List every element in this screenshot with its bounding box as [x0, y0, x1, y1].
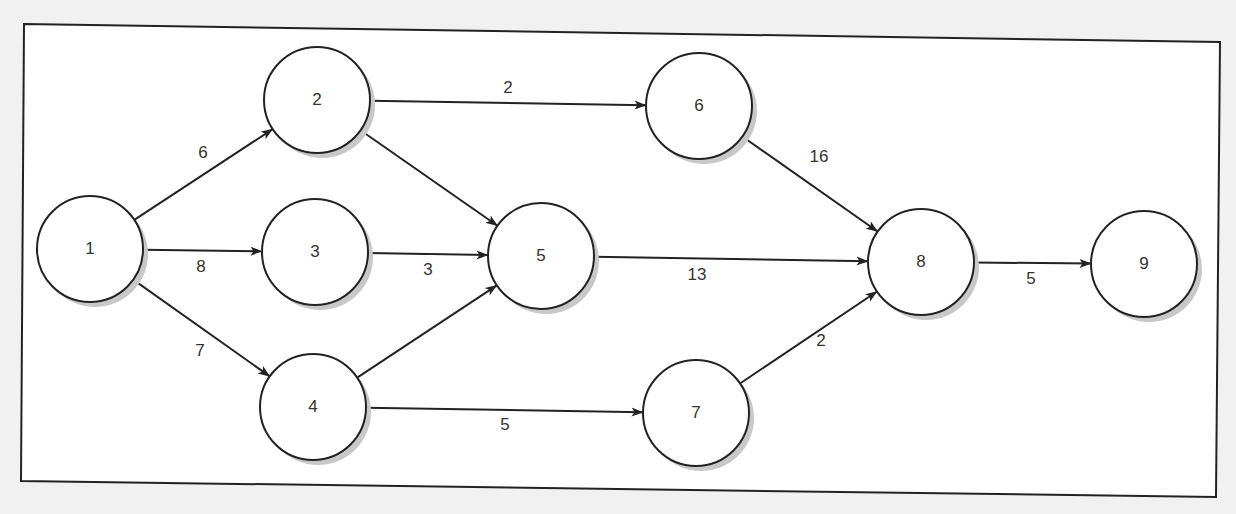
edge-weight-4-7: 5 — [500, 415, 509, 434]
node-label: 8 — [916, 252, 925, 271]
edge-weight-7-8: 2 — [816, 331, 825, 350]
edge-weight-1-2: 6 — [198, 143, 207, 162]
edge-weight-5-8: 13 — [688, 265, 707, 284]
edge-weight-1-3: 8 — [196, 257, 205, 276]
edge-weight-8-9: 5 — [1026, 269, 1035, 288]
edge-weight-3-5: 3 — [423, 260, 432, 279]
diagram-canvas: 687235131625 123456789 — [0, 0, 1236, 514]
node-label: 4 — [308, 397, 317, 416]
node-label: 3 — [310, 242, 319, 261]
edge-weight-2-6: 2 — [503, 78, 512, 97]
node-label: 6 — [694, 96, 703, 115]
edge-weight-1-4: 7 — [195, 341, 204, 360]
node-label: 1 — [85, 239, 94, 258]
node-label: 7 — [691, 403, 700, 422]
node-label: 5 — [536, 246, 545, 265]
edge-8-to-9 — [974, 263, 1091, 264]
node-label: 9 — [1139, 254, 1148, 273]
network-diagram: 687235131625 123456789 — [0, 0, 1236, 514]
edge-weight-6-8: 16 — [810, 147, 829, 166]
node-label: 2 — [312, 90, 321, 109]
